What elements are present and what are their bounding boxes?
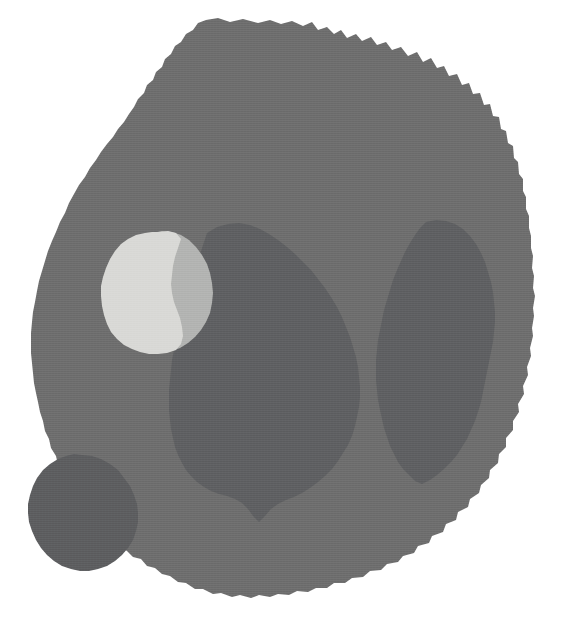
scan-image-viewer: Grayscale cross-sectional scan slice sho… [0, 0, 576, 639]
scan-slice-canvas: Grayscale cross-sectional scan slice sho… [0, 0, 576, 639]
